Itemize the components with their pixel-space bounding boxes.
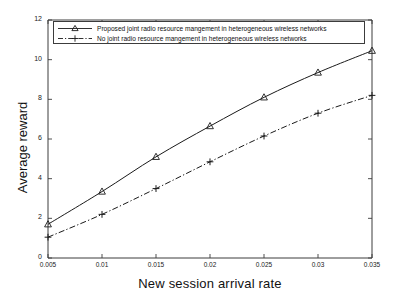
chart-plot-area [0, 0, 399, 301]
figure-canvas: 024681012 0.0050.010.0150.020.0250.030.0… [0, 0, 399, 301]
legend-label-nojoint: No joint radio resource mangement in het… [97, 34, 307, 43]
data-point-marker [99, 211, 106, 218]
x-tick-label: 0.03 [298, 261, 338, 268]
legend-label-proposed: Proposed joint radio resource mangement … [97, 24, 326, 33]
series-line-proposed [48, 51, 372, 225]
x-tick-label: 0.01 [82, 261, 122, 268]
x-tick-label: 0.005 [28, 261, 68, 268]
data-point-marker [153, 185, 160, 192]
legend-marker-triangle-icon [57, 24, 93, 33]
legend: Proposed joint radio resource mangement … [53, 21, 365, 44]
x-tick-label: 0.02 [190, 261, 230, 268]
series-line-nojoint [48, 95, 372, 237]
legend-item-proposed: Proposed joint radio resource mangement … [57, 24, 361, 33]
x-axis-label: New session arrival rate [48, 276, 372, 291]
data-point-marker [261, 133, 268, 140]
data-point-marker [207, 158, 214, 165]
data-point-marker [315, 110, 322, 117]
legend-marker-plus-icon [57, 34, 93, 43]
axis-ticks [48, 20, 372, 258]
data-point-marker [369, 92, 376, 99]
y-tick-label: 0 [16, 253, 42, 260]
data-series-layer [45, 47, 376, 240]
axes-frame [48, 20, 372, 258]
y-axis-label: Average reward [15, 58, 30, 238]
x-tick-label: 0.025 [244, 261, 284, 268]
data-point-marker [45, 234, 52, 241]
x-tick-label: 0.035 [352, 261, 392, 268]
y-tick-label: 12 [16, 15, 42, 22]
legend-item-nojoint: No joint radio resource mangement in het… [57, 34, 361, 43]
x-tick-label: 0.015 [136, 261, 176, 268]
